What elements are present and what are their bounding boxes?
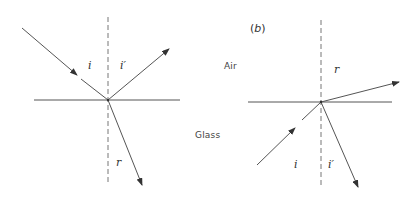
panel-a xyxy=(22,17,180,185)
panel-b-incident-ray-lower xyxy=(257,128,295,165)
medium-label-air: Air xyxy=(224,62,237,71)
panel-b-reflected-ray xyxy=(321,102,358,187)
panel-a-origin-point xyxy=(107,99,109,101)
panel-b-caption-close: ) xyxy=(261,22,265,35)
panel-b-caption: (b) xyxy=(250,23,266,34)
panel-a-reflected-angle-label: i′ xyxy=(120,60,126,71)
panel-b xyxy=(248,20,399,187)
panel-b-refracted-ray xyxy=(321,82,399,102)
panel-a-reflected-ray xyxy=(108,49,169,100)
panel-a-refracted-ray xyxy=(108,100,142,185)
optics-diagram xyxy=(0,0,410,198)
panel-a-incident-ray-upper xyxy=(22,28,77,75)
panel-b-origin-point xyxy=(320,101,322,103)
panel-b-reflected-angle-label: i′ xyxy=(328,159,334,170)
panel-a-refracted-angle-label: r xyxy=(116,157,121,168)
panel-b-incident-ray-upper xyxy=(302,102,321,120)
panel-b-refracted-angle-label: r xyxy=(334,64,339,75)
panel-a-incident-ray-lower xyxy=(81,79,108,100)
medium-label-glass: Glass xyxy=(195,131,220,140)
panel-a-incident-angle-label: i xyxy=(88,60,92,71)
panel-b-incident-angle-label: i xyxy=(294,159,298,170)
